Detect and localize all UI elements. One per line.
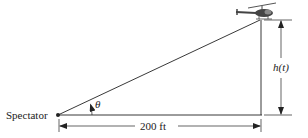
angle-arc (91, 105, 93, 116)
distance-label: 200 ft (140, 120, 166, 132)
spectator-point (56, 113, 60, 117)
height-label: h(t) (273, 61, 289, 74)
helicopter-icon (236, 3, 276, 19)
triangle-diagram: h(t) 200 ft Spectator θ (0, 0, 308, 138)
angle-label: θ (95, 98, 101, 110)
diagram-canvas: h(t) 200 ft Spectator θ (0, 0, 308, 138)
line-of-sight (58, 20, 260, 115)
spectator-label: Spectator (6, 109, 48, 121)
